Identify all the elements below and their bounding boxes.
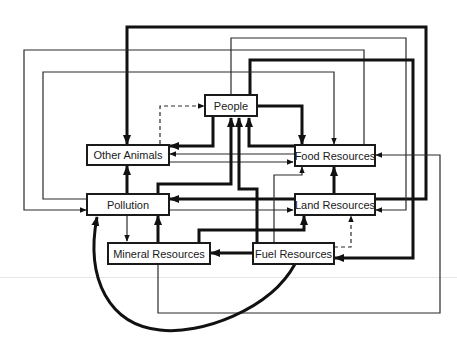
edge-mineral-to-land: [199, 216, 304, 242]
node-label: People: [214, 100, 248, 112]
connections-layer: [0, 0, 457, 349]
edge-other-animals-to-people: [160, 106, 204, 144]
node-pollution: Pollution: [86, 193, 170, 216]
edge-people-to-other-animals: [170, 117, 213, 146]
node-other-animals: Other Animals: [86, 144, 170, 166]
edge-food-to-pollution: [24, 50, 364, 210]
node-label: Fuel Resources: [255, 248, 332, 260]
node-mineral-resources: Mineral Resources: [107, 242, 211, 265]
node-land-resources: Land Resources: [294, 193, 376, 216]
node-people: People: [204, 94, 258, 117]
node-food-resources: Food Resources: [294, 144, 376, 167]
node-label: Mineral Resources: [113, 248, 205, 260]
edge-pollution-to-food: [43, 72, 334, 199]
edge-people-to-food: [258, 106, 302, 144]
node-label: Other Animals: [93, 149, 162, 161]
edge-land-to-other-animals: [127, 27, 426, 199]
node-label: Pollution: [107, 199, 149, 211]
edge-food-to-people: [249, 118, 294, 146]
edge-fuel-to-land: [334, 216, 351, 247]
node-label: Land Resources: [295, 199, 375, 211]
node-label: Food Resources: [295, 150, 376, 162]
edge-people-to-land: [231, 38, 406, 210]
node-fuel-resources: Fuel Resources: [252, 242, 335, 265]
